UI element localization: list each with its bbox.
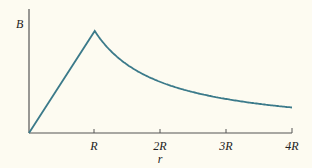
tick-label-2R: 2R: [153, 139, 167, 153]
y-axis-label: B: [16, 17, 24, 31]
x-axis-label: r: [158, 152, 163, 166]
b-field-curve: [29, 31, 292, 133]
chart: B R 2R 3R 4R r: [0, 0, 312, 168]
tick-label-R: R: [89, 139, 98, 153]
x-ticks: [94, 128, 292, 133]
tick-label-3R: 3R: [218, 139, 233, 153]
tick-label-4R: 4R: [285, 139, 299, 153]
